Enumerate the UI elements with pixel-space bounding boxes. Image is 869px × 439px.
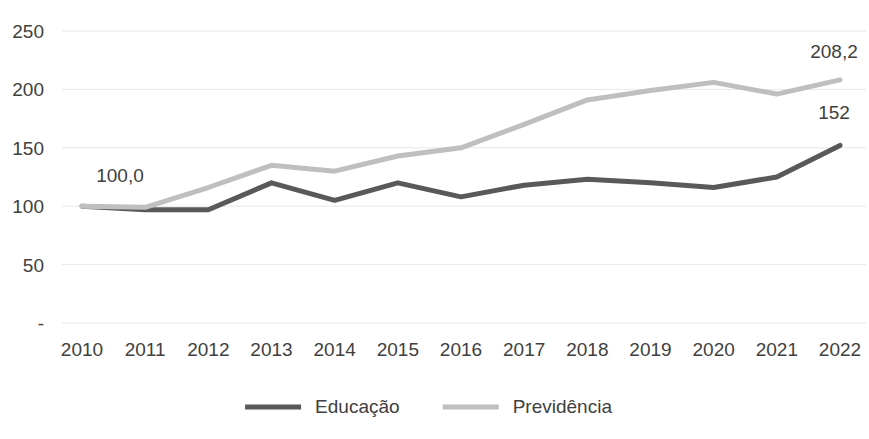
chart-canvas: -50100150200250 201020112012201320142015… [0, 0, 869, 439]
series-lines [82, 80, 840, 210]
x-tick-label-2016: 2016 [440, 339, 482, 360]
x-tick-label-2012: 2012 [187, 339, 229, 360]
line-chart: -50100150200250 201020112012201320142015… [0, 0, 869, 439]
x-tick-label-2013: 2013 [250, 339, 292, 360]
x-tick-label-2015: 2015 [377, 339, 419, 360]
x-tick-label-2021: 2021 [756, 339, 798, 360]
y-tick-label: 200 [12, 79, 44, 100]
legend-label-previdencia: Previdência [513, 396, 613, 417]
x-tick-label-2022: 2022 [819, 339, 861, 360]
y-tick-label: 100 [12, 196, 44, 217]
data-point-labels: 100,0208,2152 [96, 41, 858, 186]
x-tick-label-2018: 2018 [566, 339, 608, 360]
chart-legend: EducaçãoPrevidência [245, 396, 612, 417]
legend-label-educacao: Educação [315, 396, 400, 417]
x-tick-label-2019: 2019 [629, 339, 671, 360]
y-tick-label: - [38, 313, 44, 334]
y-tick-label: 250 [12, 21, 44, 42]
x-tick-label-2010: 2010 [61, 339, 103, 360]
data-label-2082: 208,2 [810, 41, 858, 62]
y-tick-label: 50 [23, 255, 44, 276]
x-tick-label-2011: 2011 [125, 339, 166, 360]
data-label-152: 152 [818, 102, 850, 123]
x-tick-label-2020: 2020 [693, 339, 735, 360]
series-line-previdencia [82, 80, 840, 208]
x-tick-label-2017: 2017 [503, 339, 545, 360]
gridlines [62, 31, 866, 323]
x-axis-tick-labels: 2010201120122013201420152016201720182019… [61, 339, 861, 360]
data-label-1000: 100,0 [96, 165, 144, 186]
y-axis-tick-labels: -50100150200250 [12, 21, 44, 334]
y-tick-label: 150 [12, 138, 44, 159]
x-tick-label-2014: 2014 [314, 339, 357, 360]
series-line-educacao [82, 145, 840, 209]
